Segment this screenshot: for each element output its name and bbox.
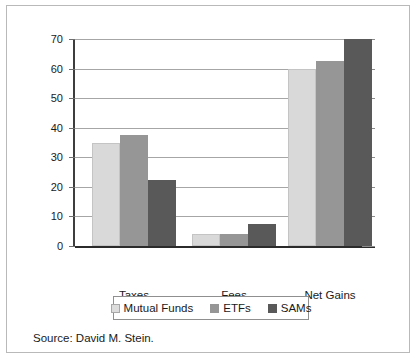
y-tick-left-0 bbox=[69, 246, 75, 247]
y-axis-label-70: 70 bbox=[33, 34, 63, 45]
legend-item-sams[interactable]: SAMs bbox=[268, 302, 312, 314]
legend-label: Mutual Funds bbox=[124, 302, 194, 314]
y-tick-left-40 bbox=[69, 128, 75, 129]
y-tick-left-70 bbox=[69, 39, 75, 40]
y-axis-label-20: 20 bbox=[33, 182, 63, 193]
y-tick-left-20 bbox=[69, 187, 75, 188]
y-axis-label-40: 40 bbox=[33, 123, 63, 134]
y-tick-right-0 bbox=[362, 246, 375, 247]
legend-label: SAMs bbox=[281, 302, 312, 314]
bar-fees-etfs bbox=[220, 234, 248, 246]
bar-taxes-etfs bbox=[120, 135, 148, 246]
bar-net-gains-etfs bbox=[316, 61, 344, 246]
legend-item-etfs[interactable]: ETFs bbox=[210, 302, 250, 314]
legend-label: ETFs bbox=[223, 302, 250, 314]
y-axis-label-0: 0 bbox=[33, 241, 63, 252]
y-axis-label-30: 30 bbox=[33, 152, 63, 163]
figure-container: 010203040506070 TaxesFeesNet Gains Mutua… bbox=[6, 5, 410, 353]
bar-net-gains-sams bbox=[344, 39, 372, 246]
bar-taxes-sams bbox=[148, 180, 176, 246]
y-tick-left-60 bbox=[69, 69, 75, 70]
bar-fees-sams bbox=[248, 224, 276, 246]
legend-swatch-icon bbox=[210, 304, 219, 313]
legend-item-mutual-funds[interactable]: Mutual Funds bbox=[111, 302, 194, 314]
y-axis-label-60: 60 bbox=[33, 64, 63, 75]
plot-area: 010203040506070 TaxesFeesNet Gains bbox=[75, 39, 375, 246]
y-axis-label-50: 50 bbox=[33, 93, 63, 104]
bar-fees-mutual-funds bbox=[192, 234, 220, 246]
legend-swatch-icon bbox=[268, 304, 277, 313]
gridline-0 bbox=[75, 246, 375, 248]
bar-net-gains-mutual-funds bbox=[288, 69, 316, 246]
y-tick-left-50 bbox=[69, 98, 75, 99]
chart-legend: Mutual FundsETFsSAMs bbox=[113, 296, 309, 320]
source-note: Source: David M. Stein. bbox=[33, 332, 154, 345]
y-axis-label-10: 10 bbox=[33, 211, 63, 222]
gridline-70 bbox=[75, 39, 368, 40]
bar-taxes-mutual-funds bbox=[92, 143, 120, 247]
legend-swatch-icon bbox=[111, 304, 120, 313]
y-tick-left-30 bbox=[69, 157, 75, 158]
y-tick-left-10 bbox=[69, 216, 75, 217]
